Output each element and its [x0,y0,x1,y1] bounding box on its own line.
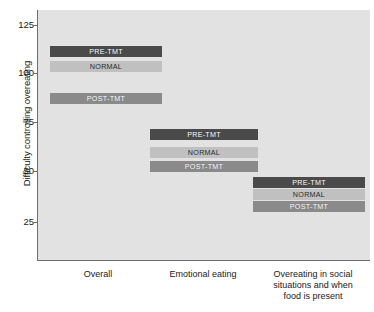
bar-emotional-eating-pre-tmt: PRE-TMT [150,129,258,140]
chart-figure: Difficulty controlling overeating 125 10… [0,0,374,312]
x-category-label-overall: Overall [46,269,150,280]
bar-label: NORMAL [188,148,220,157]
plot-area: PRE-TMT NORMAL POST-TMT PRE-TMT NORMAL P… [38,10,370,260]
x-category-line: food is present [255,291,371,302]
y-tick-label-50: 50 [4,165,34,176]
y-axis-ticks: 125 100 75 50 25 [0,0,34,312]
bar-label: POST-TMT [290,202,328,211]
y-tick-label-25: 25 [4,216,34,227]
bar-label: PRE-TMT [187,130,221,139]
y-tick-label-125: 125 [4,19,34,30]
bar-overall-normal: NORMAL [50,61,162,72]
x-category-label-emotional-eating: Emotional eating [148,269,258,280]
bar-overall-post-tmt: POST-TMT [50,93,162,104]
bar-label: NORMAL [293,190,325,199]
x-category-line: Emotional eating [148,269,258,280]
bar-emotional-eating-normal: NORMAL [150,147,258,158]
x-axis-line [37,260,370,261]
bar-social-overeating-pre-tmt: PRE-TMT [253,177,365,188]
y-tick-label-75: 75 [4,116,34,127]
bar-overall-pre-tmt: PRE-TMT [50,46,162,57]
bar-label: POST-TMT [87,94,125,103]
bar-emotional-eating-post-tmt: POST-TMT [150,161,258,172]
bar-social-overeating-normal: NORMAL [253,189,365,200]
bar-label: PRE-TMT [89,47,123,56]
y-axis-line [37,10,38,261]
x-category-line: Overall [46,269,150,280]
bar-label: POST-TMT [185,162,223,171]
bar-label: NORMAL [90,62,122,71]
x-category-line: Overeating in social [255,269,371,280]
bar-social-overeating-post-tmt: POST-TMT [253,201,365,212]
bar-label: PRE-TMT [292,178,326,187]
y-tick-label-100: 100 [4,67,34,78]
x-category-label-social-overeating: Overeating in social situations and when… [255,269,371,302]
x-category-line: situations and when [255,280,371,291]
